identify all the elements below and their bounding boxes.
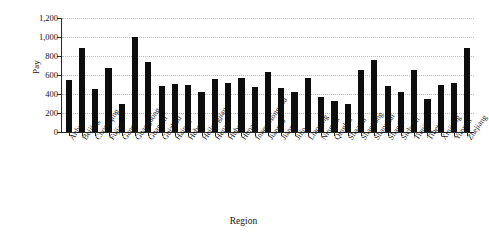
y-axis-tick-label: 400: [24, 90, 58, 99]
y-axis-tick-label: 600: [24, 71, 58, 80]
y-axis-line: [61, 18, 62, 133]
y-axis-tick-label: 800: [24, 52, 58, 61]
y-axis-tick-label: 1,200: [24, 14, 58, 23]
x-axis-tick-labels: AnhuiBeijingChongqingFujianGansuGuangdon…: [62, 137, 474, 203]
x-axis-title: Region: [0, 216, 487, 226]
y-axis-tick-labels: 02004006008001,0001,200: [20, 18, 58, 132]
bar: [79, 48, 85, 132]
bar: [66, 80, 72, 132]
y-axis-tick-label: 0: [24, 128, 58, 137]
bar: [305, 78, 311, 132]
y-axis-tick-label: 1,000: [24, 33, 58, 42]
bar: [132, 37, 138, 132]
y-axis-tick-label: 200: [24, 109, 58, 118]
